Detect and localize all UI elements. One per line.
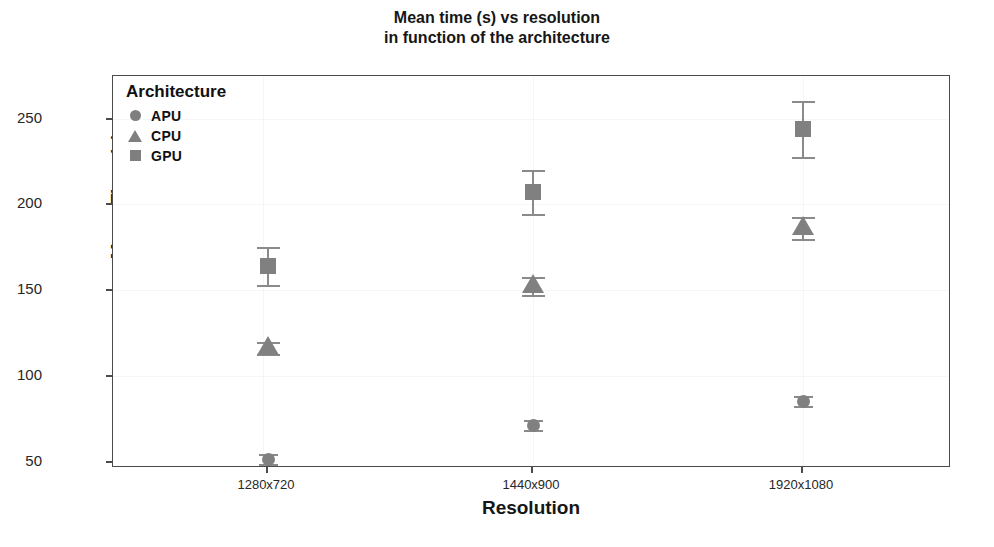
legend-title: Architecture	[126, 82, 275, 102]
circle-marker-icon	[527, 419, 540, 432]
legend-item-gpu[interactable]: GPU	[125, 146, 275, 165]
legend-item-apu[interactable]: APU	[125, 106, 275, 125]
square-marker-icon	[125, 146, 145, 165]
error-bar-cap-lower	[792, 157, 815, 159]
legend-item-label: APU	[151, 108, 181, 124]
triangle-marker-icon	[522, 274, 544, 293]
square-marker-icon	[525, 184, 541, 200]
triangle-marker-icon	[792, 216, 814, 235]
x-tick-label-1920x1080: 1920x1080	[721, 477, 881, 492]
legend-item-label: GPU	[151, 148, 182, 164]
x-axis-label: Resolution	[112, 497, 950, 519]
faint-line	[533, 76, 534, 466]
triangle-marker-icon	[125, 126, 145, 145]
error-bar-cap-lower	[257, 285, 280, 287]
x-tick-mark-1920x1080	[801, 467, 803, 473]
chart-title: Mean time (s) vs resolution in function …	[0, 8, 994, 48]
error-bar-cap-lower	[522, 214, 545, 216]
x-tick-mark-1280x720	[266, 467, 268, 473]
chart-title-line1: Mean time (s) vs resolution	[394, 9, 600, 26]
y-tick-label-200: 200	[0, 194, 42, 211]
square-marker-icon	[795, 121, 811, 137]
circle-marker-icon	[262, 453, 275, 466]
circle-marker-icon	[125, 106, 145, 125]
faint-line	[113, 376, 949, 377]
legend-item-cpu[interactable]: CPU	[125, 126, 275, 145]
x-tick-label-1280x720: 1280x720	[186, 477, 346, 492]
error-bar-cap-lower	[522, 295, 545, 297]
error-bar-cap-upper	[522, 170, 545, 172]
legend: Architecture APU CPU GPU	[125, 82, 275, 166]
x-tick-label-1440x900: 1440x900	[451, 477, 611, 492]
faint-line	[113, 204, 949, 205]
circle-marker-icon	[797, 395, 810, 408]
error-bar-cap-upper	[792, 101, 815, 103]
triangle-marker-icon	[257, 336, 279, 355]
square-marker-icon	[260, 258, 276, 274]
y-tick-label-100: 100	[0, 366, 42, 383]
chart-title-line2: in function of the architecture	[0, 28, 994, 48]
y-tick-label-250: 250	[0, 109, 42, 126]
x-tick-mark-1440x900	[531, 467, 533, 473]
legend-item-label: CPU	[151, 128, 181, 144]
error-bar-cap-lower	[792, 239, 815, 241]
y-tick-label-150: 150	[0, 280, 42, 297]
y-tick-label-50: 50	[0, 452, 42, 469]
error-bar-cap-upper	[257, 247, 280, 249]
chart-root: Mean time (s) vs resolution in function …	[0, 0, 994, 547]
